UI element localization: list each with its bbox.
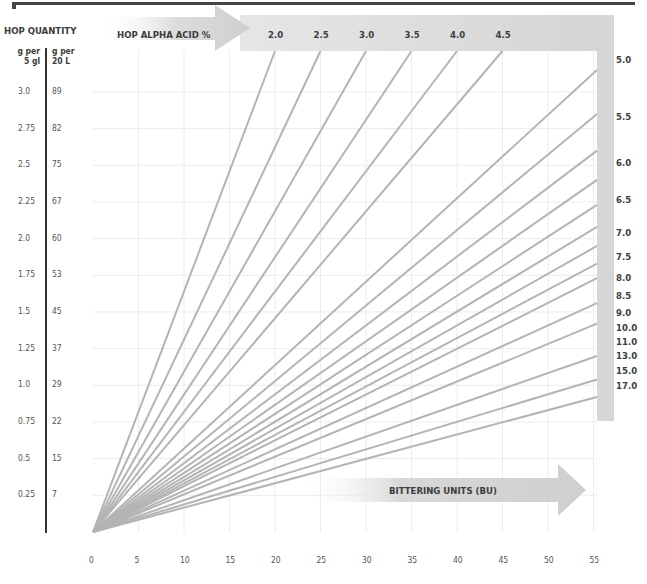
x-tick: 45 bbox=[499, 555, 509, 565]
y-tick-g-per-5gl: 3.0 bbox=[18, 86, 30, 96]
alpha-acid-right-label: 6.0 bbox=[616, 157, 631, 168]
alpha-acid-right-label: 5.5 bbox=[616, 111, 631, 122]
alpha-acid-top-label: 3.0 bbox=[359, 29, 374, 40]
y-tick-g-per-5gl: 1.25 bbox=[18, 343, 35, 353]
x-tick: 10 bbox=[180, 555, 190, 565]
alpha-acid-top-label: 3.5 bbox=[405, 29, 420, 40]
left-axis-divider bbox=[45, 48, 47, 533]
alpha-acid-line-15.0 bbox=[93, 379, 597, 532]
alpha-acid-line-6.0 bbox=[93, 151, 597, 532]
hop-quantity-label: HOP QUANTITY bbox=[4, 25, 76, 36]
y-tick-g-per-5gl: 2.75 bbox=[18, 123, 35, 133]
alpha-acid-arrow bbox=[100, 5, 250, 51]
y-tick-g-per-5gl: 0.5 bbox=[18, 453, 30, 463]
bittering-units-label: BITTERING UNITS (BU) bbox=[389, 485, 497, 496]
g-per-20l-line2: 20 L bbox=[52, 56, 75, 66]
y-tick-g-per-20l: 15 bbox=[52, 453, 62, 463]
alpha-acid-lines bbox=[93, 51, 597, 532]
alpha-acid-top-label: 4.0 bbox=[450, 29, 465, 40]
g-per-5gl-line1: g per bbox=[4, 46, 40, 56]
x-tick: 0 bbox=[89, 555, 94, 565]
y-tick-g-per-20l: 53 bbox=[52, 269, 62, 279]
hop-alpha-acid-label: HOP ALPHA ACID % bbox=[117, 29, 210, 40]
alpha-acid-right-label: 17.0 bbox=[616, 380, 637, 391]
y-tick-g-per-20l: 89 bbox=[52, 86, 62, 96]
x-tick: 35 bbox=[408, 555, 418, 565]
x-tick: 50 bbox=[544, 555, 554, 565]
y-tick-g-per-5gl: 2.25 bbox=[18, 196, 35, 206]
alpha-acid-line-5.0 bbox=[93, 70, 597, 532]
x-tick: 40 bbox=[453, 555, 463, 565]
alpha-acid-right-label: 11.0 bbox=[616, 336, 637, 347]
y-tick-g-per-20l: 67 bbox=[52, 196, 62, 206]
alpha-acid-top-label: 2.0 bbox=[268, 29, 283, 40]
alpha-acid-right-label: 7.5 bbox=[616, 251, 631, 262]
y-tick-g-per-20l: 60 bbox=[52, 233, 62, 243]
alpha-acid-right-label: 6.5 bbox=[616, 194, 631, 205]
y-tick-g-per-5gl: 2.5 bbox=[18, 159, 30, 169]
alpha-acid-right-label: 10.0 bbox=[616, 322, 637, 333]
g-per-20l-line1: g per bbox=[52, 46, 75, 56]
alpha-acid-right-label: 15.0 bbox=[616, 365, 637, 376]
g-per-5gl-line2: 5 gl bbox=[4, 56, 40, 66]
alpha-acid-line-5.5 bbox=[93, 114, 597, 532]
x-tick: 20 bbox=[271, 555, 281, 565]
alpha-acid-right-label: 8.0 bbox=[616, 272, 631, 283]
y-tick-g-per-20l: 29 bbox=[52, 379, 62, 389]
y-tick-g-per-5gl: 0.25 bbox=[18, 489, 35, 499]
alpha-acid-top-label: 4.5 bbox=[496, 29, 511, 40]
y-tick-g-per-20l: 82 bbox=[52, 123, 62, 133]
alpha-acid-right-label: 7.0 bbox=[616, 227, 631, 238]
g-per-20l-header: g per 20 L bbox=[52, 46, 75, 66]
x-tick: 55 bbox=[590, 555, 600, 565]
g-per-5gl-header: g per 5 gl bbox=[4, 46, 40, 66]
x-tick: 25 bbox=[317, 555, 327, 565]
y-tick-g-per-5gl: 1.5 bbox=[18, 306, 30, 316]
y-tick-g-per-20l: 37 bbox=[52, 343, 62, 353]
y-tick-g-per-5gl: 0.75 bbox=[18, 416, 35, 426]
chart-canvas bbox=[0, 0, 647, 584]
x-tick: 15 bbox=[226, 555, 236, 565]
alpha-acid-top-label: 2.5 bbox=[314, 29, 329, 40]
y-tick-g-per-5gl: 1.75 bbox=[18, 269, 35, 279]
grid-lines bbox=[93, 50, 597, 532]
y-tick-g-per-5gl: 1.0 bbox=[18, 379, 30, 389]
y-tick-g-per-20l: 22 bbox=[52, 416, 62, 426]
alpha-acid-right-label: 8.5 bbox=[616, 290, 631, 301]
y-tick-g-per-20l: 75 bbox=[52, 159, 62, 169]
alpha-acid-right-label: 13.0 bbox=[616, 350, 637, 361]
y-tick-g-per-20l: 45 bbox=[52, 306, 62, 316]
y-tick-g-per-20l: 7 bbox=[52, 489, 57, 499]
x-tick: 5 bbox=[135, 555, 140, 565]
x-tick: 30 bbox=[362, 555, 372, 565]
alpha-acid-right-label: 9.0 bbox=[616, 307, 631, 318]
alpha-acid-right-label: 5.0 bbox=[616, 54, 631, 65]
y-tick-g-per-5gl: 2.0 bbox=[18, 233, 30, 243]
alpha-acid-line-2.5 bbox=[93, 51, 321, 532]
